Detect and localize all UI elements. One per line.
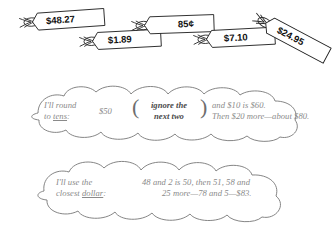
price-tag-label: $7.10 bbox=[224, 31, 248, 43]
price-tag-label: $1.89 bbox=[108, 33, 132, 45]
label-suffix: : bbox=[67, 111, 70, 121]
round-to-tens-label-line1: I'll round bbox=[44, 100, 76, 111]
ignore-next-two-line1: ignore the bbox=[139, 100, 199, 111]
label-suffix: : bbox=[103, 188, 106, 198]
round-to-tens-body-line2: Then $20 more—about $80. bbox=[212, 111, 309, 122]
label-prefix: to bbox=[44, 111, 53, 121]
closest-dollar-body-line1: 48 and 2 is 50, then 51, 58 and bbox=[142, 177, 250, 188]
round-to-tens-bubble: I'll round to tens: $50 ( ) ignore the n… bbox=[14, 82, 310, 144]
round-to-tens-body-line1: and $10 is $60. bbox=[212, 100, 266, 111]
ignore-next-two-line2: next two bbox=[139, 111, 199, 122]
closest-dollar-label-line2: closest dollar: bbox=[56, 188, 106, 199]
price-tag-label: 85¢ bbox=[178, 18, 195, 30]
closest-dollar-bubble: I'll use the closest dollar: 48 and 2 is… bbox=[24, 155, 306, 227]
closest-dollar-body-line2: 25 more—78 and 5—$83. bbox=[162, 188, 252, 199]
paren-close: ) bbox=[200, 96, 207, 118]
label-underline-tens: tens bbox=[53, 111, 67, 121]
round-to-tens-amount: $50 bbox=[99, 106, 112, 116]
closest-dollar-label-line1: I'll use the bbox=[56, 177, 92, 188]
label-prefix: closest bbox=[56, 188, 82, 198]
price-tag-label: $48.27 bbox=[46, 13, 76, 26]
round-to-tens-label-line2: to tens: bbox=[44, 111, 70, 122]
label-underline-dollar: dollar bbox=[82, 188, 103, 198]
price-tag-48-27: $48.27 bbox=[17, 7, 108, 33]
